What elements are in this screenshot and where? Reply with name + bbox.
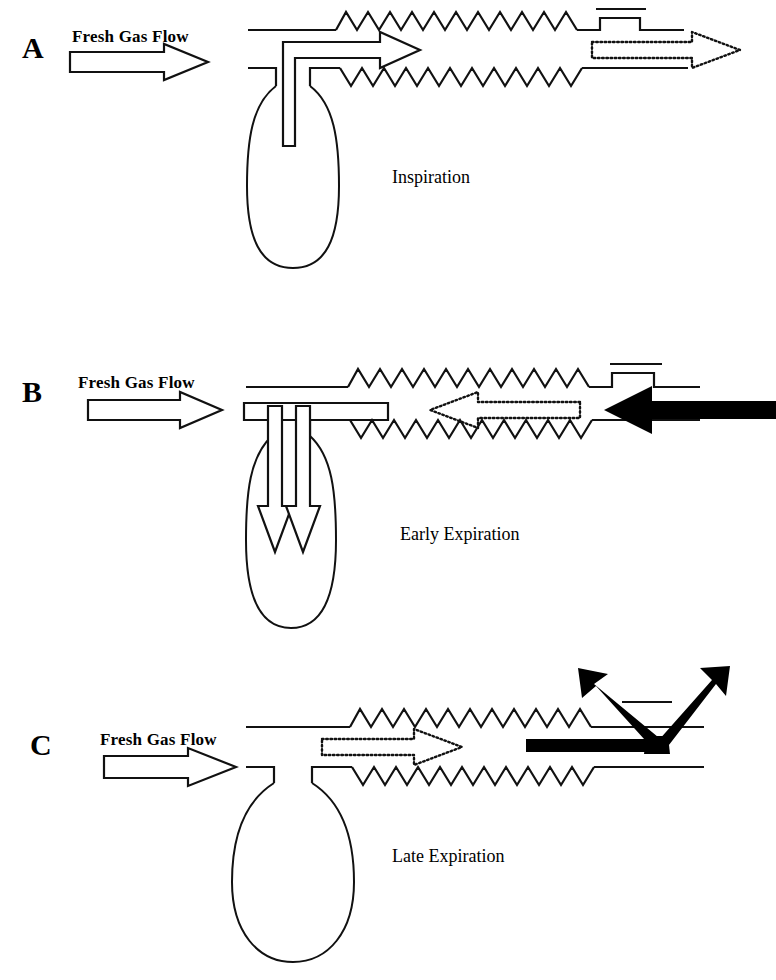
corrugated-tube-upper-a xyxy=(336,12,577,30)
corrugated-tube-lower-b xyxy=(350,420,592,438)
panel-b-early-expiration: B Fresh Gas Flow xyxy=(0,340,776,660)
expired-gas-into-bag-arrow-b xyxy=(286,406,320,552)
bag-neck-left-c xyxy=(246,767,274,783)
reservoir-bag-c xyxy=(232,783,354,962)
bag-neck-right-c xyxy=(312,767,352,783)
breathing-circuit-figure: A Fresh Gas Flow Inspiration xyxy=(0,0,776,980)
panel-c-late-expiration: C Fresh Gas Flow xyxy=(0,650,776,980)
phase-label-b: Early Expiration xyxy=(400,524,519,544)
apl-valve-body-a xyxy=(577,18,684,30)
phase-label-c: Late Expiration xyxy=(392,846,504,866)
fresh-gas-flow-arrow-a xyxy=(70,44,208,80)
bag-outflow-arrow-c xyxy=(322,729,462,765)
panel-letter-c: C xyxy=(30,728,52,761)
bag-neck-right-b xyxy=(310,420,350,436)
fresh-gas-flow-label-c: Fresh Gas Flow xyxy=(100,730,217,749)
panel-b-diagram: B Fresh Gas Flow xyxy=(0,340,776,660)
fresh-gas-flow-label-b: Fresh Gas Flow xyxy=(78,373,195,392)
corrugated-tube-lower-c xyxy=(352,767,594,785)
bag-neck-left-a xyxy=(248,68,276,86)
inspiratory-flow-arrow-a xyxy=(283,32,420,146)
phase-label-a: Inspiration xyxy=(392,167,470,187)
panel-a-inspiration: A Fresh Gas Flow Inspiration xyxy=(0,0,776,330)
vent-inflow-bar-c xyxy=(526,739,656,752)
panel-a-diagram: A Fresh Gas Flow Inspiration xyxy=(0,0,776,330)
tee-manifold-b xyxy=(244,403,388,420)
bag-neck-right-a xyxy=(310,68,340,86)
fresh-gas-flow-label-a: Fresh Gas Flow xyxy=(72,27,189,46)
apl-valve-body-b xyxy=(589,373,700,387)
corrugated-tube-upper-b xyxy=(348,369,589,387)
panel-c-diagram: C Fresh Gas Flow xyxy=(0,650,776,980)
corrugated-tube-lower-a xyxy=(340,68,582,86)
reservoir-bag-b xyxy=(246,436,336,628)
vent-fork-joint-c xyxy=(644,736,670,754)
panel-letter-a: A xyxy=(22,31,44,64)
fresh-gas-into-bag-arrow-b xyxy=(258,406,292,552)
corrugated-tube-upper-c xyxy=(350,709,591,727)
fresh-gas-flow-arrow-c xyxy=(104,748,236,786)
fresh-gas-flow-arrow-b xyxy=(88,392,222,428)
patient-inflow-arrow-a xyxy=(592,32,740,68)
patient-expiration-arrow-b xyxy=(604,386,776,434)
panel-letter-b: B xyxy=(22,375,42,408)
